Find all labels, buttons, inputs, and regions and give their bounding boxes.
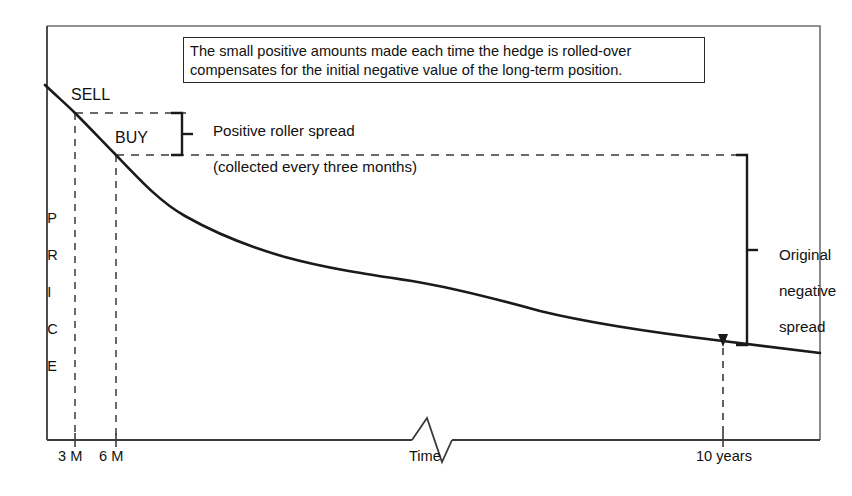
positive-roller-spread-line-1: Positive roller spread	[213, 122, 355, 139]
original-negative-spread-label: Original negative spread	[762, 228, 836, 354]
x-tick-label-3m: 3 M	[58, 448, 82, 465]
frame-border	[47, 26, 820, 440]
y-axis-label: P R I C E	[31, 190, 46, 394]
y-axis-label-letter-1: R	[47, 247, 57, 263]
original-negative-spread-line-1: Original	[779, 246, 831, 263]
x-tick-label-6m: 6 M	[99, 448, 123, 465]
y-axis-label-letter-0: P	[47, 210, 57, 226]
callout-line-1: The small positive amounts made each tim…	[190, 43, 631, 59]
buy-label: BUY	[115, 129, 148, 148]
bracket-positive-roller-spread	[171, 113, 182, 155]
original-negative-spread-line-3: spread	[779, 318, 825, 335]
callout-line-2: compensates for the initial negative val…	[190, 62, 622, 78]
figure-root: The small positive amounts made each tim…	[0, 0, 852, 496]
y-axis-label-letter-3: C	[47, 321, 57, 337]
y-axis-label-letter-4: E	[47, 358, 57, 374]
sell-label: SELL	[71, 86, 110, 105]
callout-text: The small positive amounts made each tim…	[190, 42, 702, 81]
x-tick-label-10-years: 10 years	[696, 448, 752, 465]
x-axis-label: Time	[409, 448, 441, 465]
positive-roller-spread-line-2: (collected every three months)	[213, 158, 417, 175]
original-negative-spread-line-2: negative	[779, 282, 836, 299]
y-axis-label-letter-2: I	[47, 284, 51, 300]
callout-box: The small positive amounts made each tim…	[183, 37, 705, 83]
price-curve	[45, 85, 820, 353]
positive-roller-spread-label: Positive roller spread (collected every …	[196, 104, 417, 194]
bracket-original-negative-spread	[736, 155, 747, 345]
